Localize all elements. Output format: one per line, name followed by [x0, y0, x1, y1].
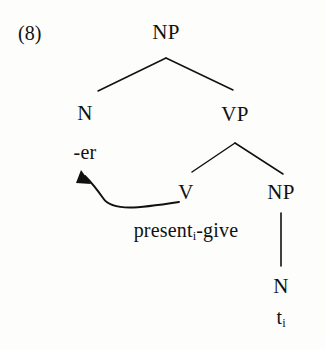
node-v: V — [178, 182, 193, 203]
node-v-terminal-tail: -give — [196, 219, 238, 241]
head-movement-arrow-curve — [85, 176, 179, 208]
node-affix-er: -er — [74, 142, 97, 162]
edge-vp-to-v — [192, 143, 235, 172]
node-root-np-label: NP — [152, 20, 179, 44]
example-number: (8) — [18, 23, 41, 43]
edge-np-to-vp — [166, 58, 233, 90]
head-movement-arrowhead — [76, 170, 91, 184]
node-n-right-label: N — [273, 274, 288, 298]
node-object-np: NP — [267, 182, 294, 203]
node-trace: ti — [276, 307, 285, 330]
node-n-left-label: N — [77, 101, 92, 125]
node-v-label: V — [178, 180, 193, 204]
node-n-right: N — [273, 276, 288, 297]
node-vp-label: VP — [221, 102, 248, 126]
tree-edges — [0, 0, 325, 350]
tree-diagram-figure: (8) NP N -er VP V presenti-give NP N — [0, 0, 325, 350]
node-vp: VP — [221, 104, 248, 125]
node-v-terminal-stem: present — [134, 219, 193, 241]
node-affix-er-label: -er — [74, 141, 97, 163]
edge-vp-to-np — [235, 143, 283, 174]
node-v-terminal: presenti-give — [134, 220, 239, 243]
node-object-np-label: NP — [267, 180, 294, 204]
node-root-np: NP — [152, 22, 179, 43]
edge-np-to-n — [98, 58, 166, 91]
example-number-text: (8) — [18, 22, 41, 44]
node-trace-index: i — [282, 316, 285, 330]
node-n-left: N — [77, 103, 92, 124]
